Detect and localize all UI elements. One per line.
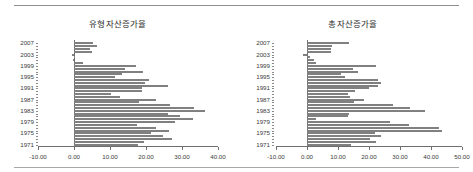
y-axis-tick — [272, 125, 274, 126]
y-axis-tick — [272, 136, 274, 137]
bar — [74, 68, 125, 70]
bar — [74, 107, 194, 109]
bar — [307, 48, 331, 50]
bar — [307, 118, 316, 120]
bar — [74, 79, 149, 81]
y-axis-tick — [272, 86, 274, 87]
bar — [74, 135, 163, 137]
bar — [307, 107, 410, 109]
y-axis-tick-label: 1983 — [256, 108, 270, 114]
y-axis-tick — [272, 77, 274, 78]
bar — [73, 59, 74, 61]
y-axis-tick — [272, 133, 274, 134]
x-axis-tick — [110, 147, 111, 150]
y-axis-tick — [272, 43, 274, 44]
bar — [74, 71, 143, 73]
y-axis-tick — [272, 114, 274, 115]
x-axis-tick-label: 20.00 — [138, 153, 153, 160]
plot-area-left: -10.000.0010.0020.0030.0040.00 — [38, 42, 218, 146]
bar — [307, 62, 316, 64]
y-axis-tick-label: 1979 — [256, 119, 270, 125]
y-axis-tick — [272, 74, 274, 75]
bar — [307, 132, 375, 134]
bar — [307, 45, 332, 47]
x-axis-tick-label: 50.00 — [454, 153, 469, 160]
x-axis-tick — [431, 147, 432, 150]
bar — [307, 82, 381, 84]
bar — [74, 56, 75, 58]
bar — [307, 90, 355, 92]
bar — [74, 82, 145, 84]
bar — [74, 42, 93, 44]
bar — [307, 130, 442, 132]
bar — [74, 96, 120, 98]
y-axis-tick — [272, 102, 274, 103]
bar — [72, 54, 74, 56]
y-axis-tick — [272, 88, 274, 89]
y-axis-tick-label: 1987 — [20, 97, 34, 103]
x-axis-tick — [276, 147, 277, 150]
bar — [307, 104, 393, 106]
y-axis-tick — [272, 69, 274, 70]
y-axis-tick — [272, 128, 274, 129]
bar — [74, 51, 92, 53]
top-divider-rule — [14, 5, 459, 6]
chart-title-left: 유형자산증가율 — [4, 17, 232, 29]
bar — [74, 45, 97, 47]
bar — [74, 101, 139, 103]
x-axis-tick — [146, 147, 147, 150]
bar — [74, 62, 83, 64]
y-axis-tick-label: 1991 — [256, 85, 270, 91]
x-axis-line-left — [38, 146, 218, 147]
bar — [307, 124, 409, 126]
bar — [74, 93, 111, 95]
x-axis-tick — [462, 147, 463, 150]
x-axis-tick — [338, 147, 339, 150]
bar — [307, 85, 378, 87]
bar — [74, 110, 205, 112]
x-axis-tick-label: 10.00 — [102, 153, 117, 160]
y-axis-tick — [272, 57, 274, 58]
bar — [74, 121, 175, 123]
y-axis-labels-left: 2007200319991995199119871983197919751971 — [4, 42, 38, 146]
y-axis-tick — [272, 91, 274, 92]
y-axis-tick-label: 1983 — [20, 108, 34, 114]
bar — [74, 138, 172, 140]
y-axis-tick — [272, 142, 274, 143]
chart-title-right: 총자산증가율 — [236, 17, 470, 29]
x-axis-tick-label: 40.00 — [423, 153, 438, 160]
y-axis-tick — [272, 80, 274, 81]
x-axis-tick-label: -10.00 — [29, 153, 47, 160]
bar — [74, 48, 90, 50]
y-axis-tick — [272, 116, 274, 117]
plot-area-right: -10.000.0010.0020.0030.0040.0050.00 — [276, 42, 462, 146]
bar — [74, 130, 169, 132]
y-axis-tick-label: 1999 — [256, 63, 270, 69]
x-axis-tick-label: 20.00 — [361, 153, 376, 160]
bar — [74, 104, 170, 106]
bar — [307, 59, 314, 61]
y-axis-tick-label: 1991 — [20, 85, 34, 91]
bar — [74, 124, 137, 126]
y-axis-tick — [272, 60, 274, 61]
bar — [307, 101, 354, 103]
bar — [307, 138, 370, 140]
y-axis-tick — [272, 49, 274, 50]
y-axis-tick — [272, 66, 274, 67]
y-axis-tick — [272, 72, 274, 73]
bar — [307, 68, 353, 70]
y-axis-tick — [272, 131, 274, 132]
y-axis-tick — [272, 122, 274, 123]
y-axis-tick — [272, 97, 274, 98]
x-axis-tick-label: 0.00 — [301, 153, 313, 160]
y-axis-tick-label: 1995 — [20, 74, 34, 80]
figure-canvas: 유형자산증가율 20072003199919951991198719831979… — [0, 0, 473, 172]
x-axis-tick-label: 30.00 — [174, 153, 189, 160]
bar — [74, 115, 180, 117]
y-axis-tick — [272, 100, 274, 101]
y-axis-tick-label: 2003 — [20, 52, 34, 58]
bar — [74, 87, 142, 89]
bar — [307, 135, 381, 137]
bar — [307, 96, 350, 98]
bar — [307, 87, 369, 89]
